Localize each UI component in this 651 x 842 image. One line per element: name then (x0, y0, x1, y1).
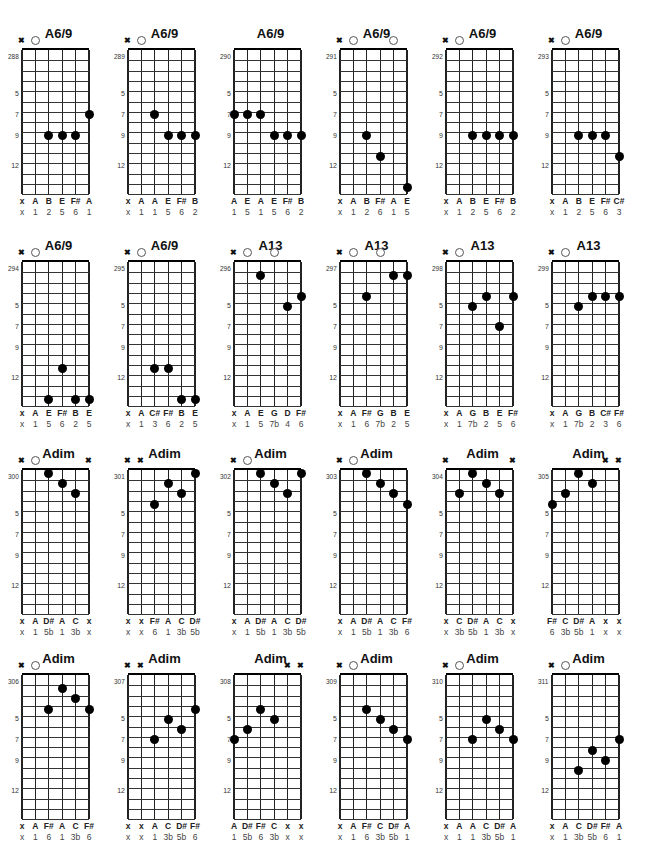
fret-line (22, 737, 89, 738)
fret-line (234, 396, 301, 397)
fret-line (234, 614, 301, 615)
fret-line (446, 594, 513, 595)
fret-marker: 12 (323, 787, 337, 794)
finger-dot-icon (44, 395, 53, 404)
fret-marker: 5 (111, 715, 125, 722)
note-label: x (545, 196, 559, 206)
fret-line (340, 480, 407, 481)
fret-marker: 12 (429, 374, 443, 381)
fret-line (128, 532, 195, 533)
fretboard-grid (234, 260, 301, 406)
fret-line (552, 386, 619, 387)
fret-line (552, 768, 619, 769)
fret-line (340, 511, 407, 512)
fret-line (446, 552, 513, 553)
finger-dot-icon (482, 131, 491, 140)
fret-marker: 9 (429, 757, 443, 764)
fret-line (552, 583, 619, 584)
fretboard-grid (446, 673, 513, 819)
note-label: E (400, 408, 414, 418)
fret-line (446, 685, 513, 686)
finger-dot-icon (270, 715, 279, 724)
note-label: E (254, 408, 268, 418)
fret-line (234, 334, 301, 335)
fret-line (446, 604, 513, 605)
finger-dot-icon (588, 292, 597, 301)
fret-line (552, 112, 619, 113)
fret-marker: 5 (535, 90, 549, 97)
fret-marker: 7 (535, 531, 549, 538)
fret-line (446, 153, 513, 154)
note-label: C (479, 821, 493, 831)
fret-line (22, 324, 89, 325)
note-label: F# (82, 821, 96, 831)
fret-line (22, 532, 89, 533)
note-label: x (439, 821, 453, 831)
finger-dot-icon (44, 469, 53, 478)
finger-dot-icon (164, 131, 173, 140)
fret-line (552, 788, 619, 789)
fret-marker: 5 (217, 90, 231, 97)
degree-label: 1 (346, 832, 360, 842)
note-label: x (333, 196, 347, 206)
note-label: C# (599, 408, 613, 418)
fret-line (22, 614, 89, 615)
finger-dot-icon (615, 735, 624, 744)
open-string-icon (137, 248, 146, 257)
diagram-number: 309 (326, 678, 337, 685)
note-label: G (572, 408, 586, 418)
degree-label: 1 (400, 832, 414, 842)
open-string-icon (349, 661, 358, 670)
muted-string-icon: ✖ (615, 456, 622, 466)
fret-line (552, 324, 619, 325)
note-label: C# (612, 196, 626, 206)
finger-dot-icon (256, 705, 265, 714)
fret-marker: 5 (535, 510, 549, 517)
fret-line (22, 283, 89, 284)
fret-marker: 5 (217, 302, 231, 309)
fret-line (446, 406, 513, 407)
fret-line (128, 60, 195, 61)
degree-label: 6 (254, 832, 268, 842)
fret-line (234, 706, 301, 707)
degree-label: 1 (148, 832, 162, 842)
fret-line (128, 122, 195, 123)
fret-line (234, 747, 301, 748)
diagram-number: 293 (538, 53, 549, 60)
chord-diagram: A6/929057912AEAEF#B151562 (217, 0, 324, 210)
fret-marker: 9 (111, 132, 125, 139)
chord-diagram: Adim30957912✖xAF#CD#Ax163b5b1 (323, 625, 430, 835)
diagram-number: 302 (220, 473, 231, 480)
fret-line (22, 112, 89, 113)
open-string-icon (31, 661, 40, 670)
note-label: B (42, 196, 56, 206)
note-label: D# (493, 821, 507, 831)
fret-line (128, 324, 195, 325)
fret-line (446, 272, 513, 273)
fret-marker: 9 (323, 132, 337, 139)
fret-marker: 9 (323, 757, 337, 764)
note-label: D# (240, 821, 254, 831)
fret-line (22, 819, 89, 820)
fret-line (128, 778, 195, 779)
note-label: x (15, 821, 29, 831)
degree-label: 1 (28, 832, 42, 842)
fret-marker: 5 (111, 510, 125, 517)
fret-line (128, 511, 195, 512)
note-label: E (585, 196, 599, 206)
fret-line (340, 819, 407, 820)
muted-string-icon: ✖ (18, 456, 25, 466)
fret-line (340, 365, 407, 366)
fret-line (340, 737, 407, 738)
fret-marker: 5 (323, 302, 337, 309)
fret-marker: 7 (111, 736, 125, 743)
muted-string-icon: ✖ (442, 248, 449, 258)
note-label: A (506, 821, 520, 831)
fret-line (552, 706, 619, 707)
fret-line (340, 112, 407, 113)
fret-line (552, 716, 619, 717)
fret-line (234, 102, 301, 103)
note-label: A (466, 821, 480, 831)
muted-string-icon: ✖ (442, 661, 449, 671)
open-string-icon (31, 456, 40, 465)
